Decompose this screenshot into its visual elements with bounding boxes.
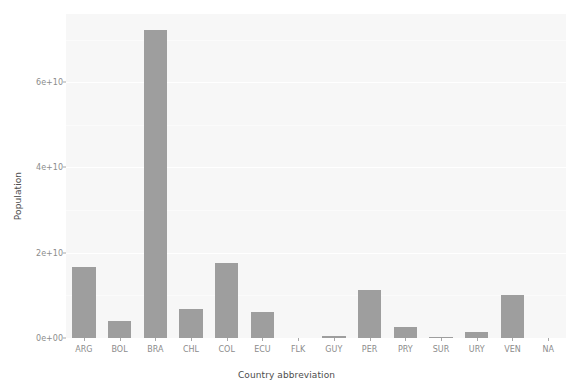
x-axis-tick-label: URY — [469, 345, 485, 354]
bar — [501, 295, 525, 338]
x-axis-tick-label: PER — [362, 345, 377, 354]
bar — [72, 267, 96, 338]
bar — [251, 312, 275, 338]
bar — [358, 290, 382, 338]
x-axis-tick-mark — [84, 338, 85, 341]
x-axis-tick-label: SUR — [433, 345, 450, 354]
bar — [215, 263, 239, 338]
bar-series — [66, 14, 566, 338]
x-axis-tick-mark — [334, 338, 335, 341]
x-axis-title: Country abbreviation — [0, 370, 573, 380]
x-axis-tick-mark — [370, 338, 371, 341]
x-axis: ARGBOLBRACHLCOLECUFLKGUYPERPRYSURURYVENN… — [66, 338, 566, 368]
x-axis-tick-mark — [227, 338, 228, 341]
x-axis-tick-mark — [191, 338, 192, 341]
x-axis-tick-label: BOL — [112, 345, 128, 354]
x-axis-tick-mark — [298, 338, 299, 341]
x-axis-tick-label: NA — [542, 345, 553, 354]
x-axis-tick-label: BRA — [147, 345, 163, 354]
bar — [144, 30, 168, 338]
x-axis-tick-label: GUY — [325, 345, 342, 354]
y-axis-tick-label: 6e+10 — [36, 78, 63, 87]
bar-chart-figure: Population 0e+002e+104e+106e+10 ARGBOLBR… — [0, 0, 573, 392]
bar — [108, 321, 132, 338]
y-axis-tick-labels: 0e+002e+104e+106e+10 — [20, 0, 63, 392]
y-axis-tick-label: 4e+10 — [36, 163, 63, 172]
x-axis-tick-mark — [120, 338, 121, 341]
x-axis-tick-label: COL — [219, 345, 235, 354]
x-axis-tick-label: FLK — [291, 345, 305, 354]
bar — [394, 327, 418, 339]
x-axis-tick-mark — [441, 338, 442, 341]
x-axis-tick-label: PRY — [398, 345, 413, 354]
x-axis-tick-label: VEN — [504, 345, 521, 354]
y-axis-tick-label: 2e+10 — [36, 248, 63, 257]
bar — [179, 309, 203, 338]
x-axis-tick-label: ECU — [254, 345, 271, 354]
x-axis-tick-mark — [548, 338, 549, 341]
x-axis-tick-label: CHL — [183, 345, 199, 354]
plot-panel — [66, 14, 566, 338]
x-axis-tick-mark — [512, 338, 513, 341]
x-axis-tick-mark — [262, 338, 263, 341]
y-axis-tick-label: 0e+00 — [36, 334, 63, 343]
x-axis-tick-mark — [477, 338, 478, 341]
x-axis-tick-mark — [155, 338, 156, 341]
x-axis-tick-label: ARG — [75, 345, 92, 354]
x-axis-tick-mark — [405, 338, 406, 341]
